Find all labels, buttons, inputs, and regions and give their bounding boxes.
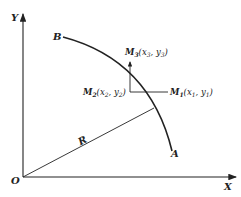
svg-text:M1(x1, y1): M1(x1, y1)	[169, 87, 213, 98]
x-axis-label: X	[223, 181, 233, 192]
point-m1-label: M1(x1, y1)	[169, 87, 213, 98]
y-axis-label: Y	[11, 12, 19, 23]
origin-label: O	[11, 175, 20, 186]
arc-end-label: A	[170, 148, 179, 159]
arc-start-label: B	[52, 31, 61, 42]
radius-line	[23, 108, 154, 177]
point-m2-label: M2(x2, y2)	[82, 87, 126, 98]
x-axis: X	[23, 177, 236, 192]
point-m3-label: M3(x3, y3)	[124, 47, 168, 58]
svg-text:M3(x3, y3): M3(x3, y3)	[124, 47, 168, 58]
arc-interpolation-diagram: Y X O B A R M3(x3, y3) M2(x2, y2) M1(x1,…	[0, 0, 241, 197]
y-axis: Y	[11, 12, 23, 177]
radius-label: R	[75, 134, 88, 148]
svg-text:M2(x2, y2): M2(x2, y2)	[82, 87, 126, 98]
